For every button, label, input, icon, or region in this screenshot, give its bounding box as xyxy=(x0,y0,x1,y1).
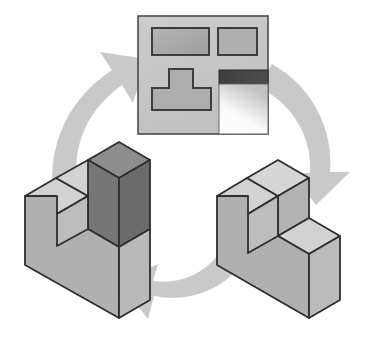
view-top-right[interactable] xyxy=(218,28,257,55)
view-dark-band[interactable] xyxy=(219,70,268,84)
orthographic-multiview-panel[interactable] xyxy=(138,16,268,134)
figure-canvas: Isometric solid to orthographic multivie… xyxy=(0,0,370,346)
isometric-solid-left[interactable] xyxy=(25,142,150,318)
diagram-svg xyxy=(0,0,370,346)
view-top-left[interactable] xyxy=(152,28,209,55)
view-gradient-panel[interactable] xyxy=(219,84,268,134)
